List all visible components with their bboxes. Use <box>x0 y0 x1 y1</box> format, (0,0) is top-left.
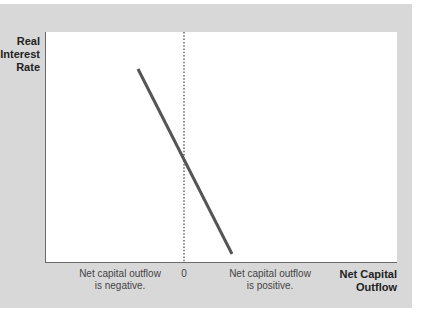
tick-label-line: is positive. <box>215 280 325 292</box>
x-axis-label-line: Net Capital <box>340 268 397 281</box>
tick-label-line: is negative. <box>65 280 175 292</box>
x-tick-zero: 0 <box>178 268 190 280</box>
y-axis-label: Real Interest Rate <box>0 35 40 74</box>
x-tick-positive: Net capital outflow is positive. <box>215 268 325 292</box>
y-axis-label-line: Real <box>0 35 40 48</box>
tick-label-line: Net capital outflow <box>65 268 175 280</box>
x-tick-negative: Net capital outflow is negative. <box>65 268 175 292</box>
y-axis-label-line: Rate <box>0 61 40 74</box>
chart-svg <box>0 0 428 314</box>
y-axis-label-line: Interest <box>0 48 40 61</box>
net-capital-outflow-curve <box>138 69 232 254</box>
tick-label-line: Net capital outflow <box>215 268 325 280</box>
x-axis-label-line: Outflow <box>340 281 397 294</box>
x-axis-label: Net Capital Outflow <box>340 268 397 294</box>
